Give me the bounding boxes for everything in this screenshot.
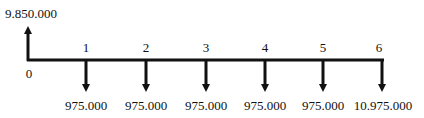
period-label-6: 6 (376, 41, 383, 54)
period-label-0: 0 (26, 67, 33, 80)
outflow-amount-label-1: 975.000 (65, 99, 107, 112)
inflow-amount-label: 9.850.000 (5, 7, 57, 20)
outflow-amount-label-3: 975.000 (185, 99, 227, 112)
outflow-amount-label-5: 975.000 (302, 99, 344, 112)
cash-flow-diagram: 9.850.000 0 1 2 3 4 5 6 975.000 975.000 … (0, 0, 424, 118)
outflow-amount-label-6: 10.975.000 (354, 99, 413, 112)
period-label-4: 4 (262, 41, 269, 54)
period-label-2: 2 (143, 41, 150, 54)
outflow-amount-label-2: 975.000 (125, 99, 167, 112)
period-label-5: 5 (320, 41, 327, 54)
period-label-1: 1 (83, 41, 90, 54)
period-label-3: 3 (203, 41, 210, 54)
outflow-amount-label-4: 975.000 (244, 99, 286, 112)
